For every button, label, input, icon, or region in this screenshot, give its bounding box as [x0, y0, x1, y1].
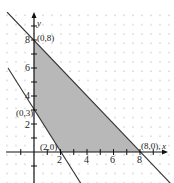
y-axis-label: y [36, 18, 41, 28]
tick-x-6: 6 [110, 154, 115, 165]
tick-x-8: 8 [137, 154, 142, 165]
tick-y-8: 8 [25, 34, 30, 45]
point-label-8-0: (8,0), [141, 141, 161, 151]
point-label-2-0: (2,0) [40, 142, 57, 152]
x-axis-label: x [161, 141, 166, 151]
tick-y-2: 2 [25, 119, 30, 130]
tick-y-4: 4 [25, 90, 30, 101]
tick-x-4: 4 [84, 154, 89, 165]
tick-x-2: 2 [57, 154, 62, 165]
tick-y-6: 6 [25, 62, 30, 73]
linear-inequality-graph: 2 4 6 8 2 4 6 8 y x (0,8) (0,3) (2,0) (8… [0, 0, 174, 183]
point-label-0-8: (0,8) [37, 33, 54, 43]
point-label-0-3: (0,3) [16, 108, 33, 118]
